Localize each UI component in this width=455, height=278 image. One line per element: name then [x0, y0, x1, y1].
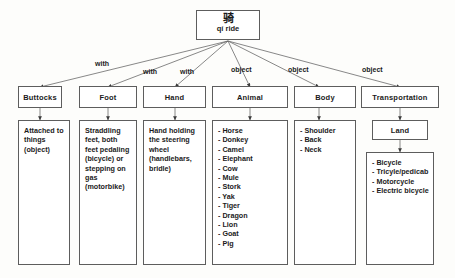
edge-label-hand: with	[180, 68, 194, 75]
edge-label-transportation: object	[362, 66, 383, 73]
category-box-body[interactable]: Body	[294, 86, 356, 108]
category-label-transportation: Transportation	[372, 93, 427, 102]
content-text-buttocks: Attached to things (object)	[24, 126, 65, 154]
category-box-transportation[interactable]: Transportation	[361, 86, 439, 108]
category-box-animal[interactable]: Animal	[212, 86, 288, 108]
root-node-hanzi: 骑	[197, 13, 259, 24]
content-text-hand: Hand holding the steering wheel (handleb…	[149, 126, 201, 173]
list-item: Lion	[218, 220, 283, 229]
list-item: Camel	[218, 145, 283, 154]
root-node: 骑 qí ride	[196, 10, 260, 40]
list-item: Pig	[218, 239, 283, 248]
list-item: Back	[300, 135, 351, 144]
content-box-foot: Straddling feet, both feet pedaling (bic…	[79, 120, 137, 265]
list-item: Bicycle	[372, 158, 429, 167]
edge-label-buttocks: with	[95, 60, 109, 67]
category-label-foot: Foot	[99, 93, 116, 102]
list-item: Mule	[218, 173, 283, 182]
category-label-body: Body	[315, 93, 335, 102]
content-box-transportation: Bicycle Tricyle/pedicab Motorcycle Elect…	[366, 152, 434, 265]
list-item: Electric bicycle	[372, 186, 429, 195]
edge-root-to-transportation	[228, 41, 400, 87]
list-item: Shoulder	[300, 126, 351, 135]
edge-root-to-body	[228, 41, 319, 87]
list-item: Goat	[218, 229, 283, 238]
edge-label-foot: with	[143, 68, 157, 75]
edge-label-animal: object	[231, 66, 252, 73]
list-item: Neck	[300, 145, 351, 154]
list-item: Stork	[218, 182, 283, 191]
content-box-body: Shoulder Back Neck	[294, 120, 356, 265]
edge-root-to-animal	[228, 41, 250, 87]
edge-label-body: object	[288, 66, 309, 73]
content-text-foot: Straddling feet, both feet pedaling (bic…	[85, 126, 132, 192]
list-item: Elephant	[218, 154, 283, 163]
category-label-hand: Hand	[165, 93, 185, 102]
edge-root-to-buttocks	[40, 41, 228, 87]
list-item: Tricyle/pedicab	[372, 167, 429, 176]
animal-list: Horse Donkey Camel Elephant Cow Mule Sto…	[218, 126, 283, 248]
transportation-list: Bicycle Tricyle/pedicab Motorcycle Elect…	[372, 158, 429, 196]
root-node-romanization: qí ride	[197, 24, 259, 34]
category-box-buttocks[interactable]: Buttocks	[18, 86, 62, 108]
list-item: Horse	[218, 126, 283, 135]
intermediate-label-land: Land	[391, 126, 410, 135]
list-item: Yak	[218, 192, 283, 201]
category-box-foot[interactable]: Foot	[79, 86, 137, 108]
list-item: Cow	[218, 164, 283, 173]
content-box-animal: Horse Donkey Camel Elephant Cow Mule Sto…	[212, 120, 288, 265]
edge-root-to-foot	[108, 41, 228, 87]
edge-root-to-hand	[175, 41, 228, 87]
category-label-animal: Animal	[237, 93, 263, 102]
content-box-hand: Hand holding the steering wheel (handleb…	[143, 120, 206, 265]
diagram-canvas: 骑 qí ride with with with object object o…	[0, 0, 455, 278]
intermediate-box-land[interactable]: Land	[372, 120, 428, 140]
list-item: Motorcycle	[372, 177, 429, 186]
category-box-hand[interactable]: Hand	[143, 86, 206, 108]
body-list: Shoulder Back Neck	[300, 126, 351, 154]
content-box-buttocks: Attached to things (object)	[18, 120, 70, 265]
list-item: Donkey	[218, 135, 283, 144]
list-item: Dragon	[218, 211, 283, 220]
category-label-buttocks: Buttocks	[23, 93, 57, 102]
list-item: Tiger	[218, 201, 283, 210]
